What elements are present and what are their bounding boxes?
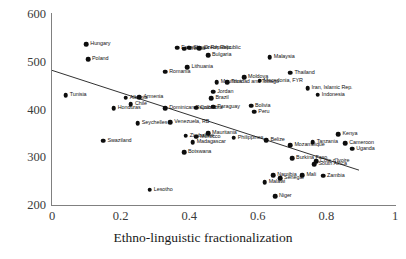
data-point-label: Paraguay [217, 104, 240, 109]
data-point [305, 86, 310, 91]
data-point [268, 55, 273, 60]
data-point-label: Lithuania [191, 64, 212, 69]
data-point-label: Trinidad and Tobago [231, 80, 279, 85]
data-point [190, 140, 195, 145]
data-point [147, 187, 152, 192]
data-point [182, 47, 187, 52]
x-axis-line [51, 205, 396, 206]
data-point [300, 173, 305, 178]
data-point-label: Madagascar [197, 139, 226, 144]
data-point [197, 46, 202, 51]
data-point [86, 57, 91, 62]
data-point [183, 133, 188, 138]
data-point [310, 140, 315, 145]
data-point-label: Venezuela, RB [174, 120, 209, 125]
x-tick-label: 0.4 [169, 210, 209, 223]
data-point [182, 150, 187, 155]
data-point [273, 194, 278, 199]
data-point-label: Malawi [269, 179, 285, 184]
data-point [290, 156, 295, 161]
data-point-label: Kenya [342, 132, 357, 137]
data-point [206, 131, 211, 136]
data-point [211, 104, 216, 109]
data-point-label: Indonesia [322, 92, 345, 97]
data-point [350, 146, 355, 151]
data-point-label: Niger [279, 194, 292, 199]
data-point [312, 162, 317, 167]
data-point-label: Malaysia [274, 54, 295, 59]
y-tick-label: 300 [2, 151, 46, 164]
scatter-chart: 600500400300200 00.20.40.60.81 HungaryPo… [0, 0, 406, 259]
data-point [168, 120, 173, 125]
data-point [206, 53, 211, 58]
data-point-label: South Africa [318, 161, 346, 166]
data-point [288, 70, 293, 75]
data-point [123, 95, 128, 100]
data-point-label: Poland [92, 57, 109, 62]
x-tick-label: 0.6 [238, 210, 278, 223]
data-point [316, 92, 321, 97]
y-axis-line [51, 13, 52, 206]
data-point-label: Brazil [215, 95, 228, 100]
y-tick-label: 400 [2, 104, 46, 117]
data-point-label: Bulgaria [212, 52, 231, 57]
data-point [252, 110, 257, 115]
data-point [137, 95, 142, 100]
data-point-label: Mali [306, 172, 316, 177]
data-point-label: Thailand [294, 70, 314, 75]
data-point-label: Hungary [90, 41, 110, 46]
data-point [262, 180, 267, 185]
data-point-label: Czech Republic [203, 46, 240, 51]
data-point-label: Peru [258, 109, 269, 114]
data-point [288, 143, 293, 148]
data-point-label: Philippines [238, 135, 264, 140]
data-point [321, 174, 326, 179]
data-point [225, 80, 230, 85]
x-tick-label: 0 [32, 210, 72, 223]
data-point [231, 135, 236, 140]
data-point [163, 106, 168, 111]
data-point [175, 46, 180, 51]
data-point [187, 46, 192, 51]
data-point-label: Tanzania [317, 140, 338, 145]
data-point-label: Seychelles [142, 121, 168, 126]
data-point [194, 105, 199, 110]
data-point [111, 106, 116, 111]
data-point [336, 132, 341, 137]
data-point [163, 69, 168, 74]
data-point-label: Swaziland [107, 138, 131, 143]
data-point-label: Botswana [188, 149, 211, 154]
data-point-label: Uganda [356, 146, 375, 151]
data-point [264, 138, 269, 143]
data-point [84, 42, 89, 47]
data-point-label: Romania [169, 69, 190, 74]
x-tick-label: 0.8 [306, 210, 346, 223]
x-tick-label: 1 [375, 210, 406, 223]
x-axis-label: Ethno-linguistic fractionalization [0, 230, 406, 246]
y-tick-label: 500 [2, 56, 46, 69]
data-point [214, 80, 219, 85]
data-point [101, 138, 106, 143]
data-point-label: Honduras [118, 105, 141, 110]
data-point-label: Belize [270, 137, 284, 142]
data-point-label: Tunisia [70, 92, 87, 97]
data-point-label: Armenia [143, 94, 163, 99]
data-point [343, 141, 348, 146]
data-point [135, 121, 140, 126]
data-point [63, 93, 68, 98]
data-point [271, 173, 276, 178]
y-tick-label: 600 [2, 8, 46, 21]
data-point-label: Lesotho [154, 187, 173, 192]
x-tick-label: 0.2 [101, 210, 141, 223]
data-point [209, 96, 214, 101]
data-point-label: Zambia [327, 173, 345, 178]
data-point [249, 103, 254, 108]
